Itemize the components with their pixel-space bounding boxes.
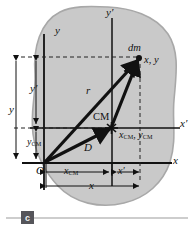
cm-coords-y-sub: CM bbox=[143, 133, 153, 140]
x-axis-label: x bbox=[173, 155, 178, 166]
y-prime-axis-label: y′ bbox=[106, 7, 113, 18]
dim-y-cm-label: yCM bbox=[27, 137, 41, 147]
dim-y-total-label: y bbox=[9, 104, 14, 115]
figure-part-label: c bbox=[25, 213, 30, 223]
cm-coords-label: xCM, yCM bbox=[119, 130, 153, 140]
dim-x-cm-sub: CM bbox=[68, 169, 78, 176]
dim-x-prime-label: x′ bbox=[118, 166, 125, 176]
origin-label: O bbox=[36, 165, 44, 176]
y-axis-label: y bbox=[55, 25, 60, 36]
cm-coords-x-sub: CM bbox=[123, 133, 133, 140]
mass-element-point bbox=[136, 55, 142, 61]
dim-y-prime-label: y′ bbox=[30, 83, 37, 94]
x-prime-axis-label: x′ bbox=[180, 118, 187, 129]
figure-part-badge: c bbox=[21, 211, 34, 224]
mass-element-label: dm bbox=[128, 43, 141, 54]
rigid-body-blob bbox=[32, 7, 176, 206]
dim-x-total-label: x bbox=[89, 180, 94, 191]
dim-x-cm-label: xCM bbox=[64, 166, 78, 176]
center-of-mass-figure: y′ y x x′ O dm x, y CM xCM, yCM r D y y′… bbox=[0, 0, 194, 231]
cm-label: CM bbox=[93, 112, 109, 123]
dim-y-cm-sub: CM bbox=[31, 140, 41, 147]
mass-element-coords-label: x, y bbox=[144, 55, 159, 66]
vector-r-label: r bbox=[86, 85, 90, 96]
vector-d-label: D bbox=[84, 142, 92, 153]
